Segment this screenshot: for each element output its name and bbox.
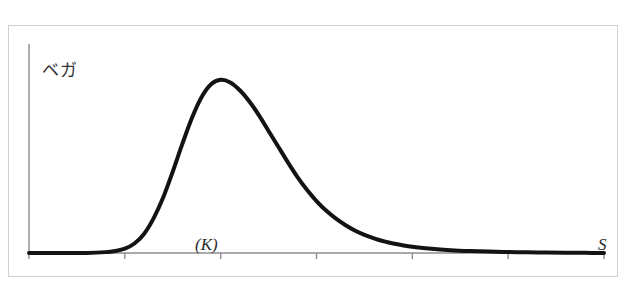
vega-curve-line bbox=[29, 80, 604, 253]
cut-off-text-sliver: — —— ——— —— ———— —— ——— —— — bbox=[18, 0, 578, 4]
axes-group bbox=[29, 44, 604, 253]
y-axis-label: ベガ bbox=[42, 56, 78, 81]
scanned-figure-page: — —— ——— —— ———— —— ——— —— — ベガ (K) S 05… bbox=[0, 0, 627, 285]
spot-price-annotation: S bbox=[598, 235, 607, 255]
strike-price-annotation: (K) bbox=[195, 235, 218, 255]
figure-frame: ベガ (K) S 050100150200250300 bbox=[8, 25, 618, 277]
vega-curve-plot bbox=[9, 26, 619, 278]
